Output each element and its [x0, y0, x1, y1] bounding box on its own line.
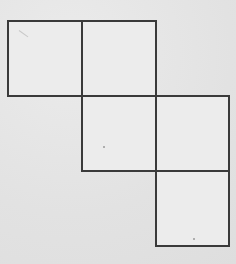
- net-square-r1-c1: [81, 95, 157, 172]
- net-square-r2-c2: [155, 170, 230, 247]
- net-square-r0-c1: [81, 20, 157, 97]
- diagram-canvas: [0, 0, 236, 264]
- dot-mark: [103, 146, 105, 148]
- net-square-r0-c0: [7, 20, 83, 97]
- net-square-r1-c2: [155, 95, 230, 172]
- dot-mark: [193, 238, 195, 240]
